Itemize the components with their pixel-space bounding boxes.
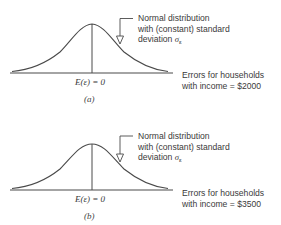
panel-label: (b) bbox=[84, 211, 95, 222]
leader-line bbox=[120, 136, 133, 154]
annotation-line3: deviation σε bbox=[138, 152, 230, 166]
arrow-head-icon bbox=[117, 154, 124, 162]
mean-label: E(ε) = 0 bbox=[75, 77, 105, 88]
leader-line bbox=[120, 19, 133, 37]
mean-label: E(ε) = 0 bbox=[75, 194, 105, 205]
panel-label: (a) bbox=[84, 94, 95, 105]
sigma-subscript: ε bbox=[179, 39, 182, 45]
axis-label-line1: Errors for households bbox=[182, 188, 264, 199]
annotation-line2: with (constant) standard bbox=[138, 24, 230, 35]
panel-a: Normal distribution with (constant) stan… bbox=[0, 0, 281, 112]
axis-label-line2: with income = $2000 bbox=[182, 81, 264, 92]
axis-label-line2: with income = $3500 bbox=[182, 199, 264, 210]
annotation-line1: Normal distribution bbox=[138, 13, 230, 24]
annotation-line1: Normal distribution bbox=[138, 131, 230, 142]
annotation: Normal distribution with (constant) stan… bbox=[138, 131, 230, 166]
sigma-subscript: ε bbox=[179, 157, 182, 163]
axis-label-line1: Errors for households bbox=[182, 70, 264, 81]
annotation-line2: with (constant) standard bbox=[138, 142, 230, 153]
annotation-line3: deviation σε bbox=[138, 34, 230, 48]
axis-label: Errors for households with income = $350… bbox=[182, 188, 264, 209]
panel-b: Normal distribution with (constant) stan… bbox=[0, 112, 281, 225]
arrow-head-icon bbox=[117, 36, 124, 44]
annotation: Normal distribution with (constant) stan… bbox=[138, 13, 230, 48]
axis-label: Errors for households with income = $200… bbox=[182, 70, 264, 91]
